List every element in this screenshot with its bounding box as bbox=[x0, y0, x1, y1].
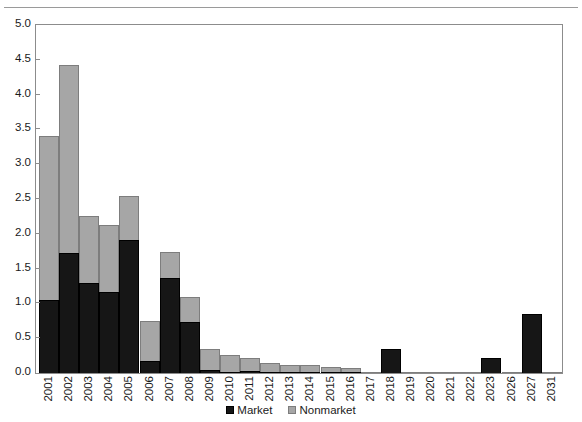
bar-stack[interactable] bbox=[79, 216, 99, 373]
legend-item[interactable]: Market bbox=[226, 404, 272, 416]
x-axis-tick-label: 2011 bbox=[244, 376, 256, 401]
bar-segment-nonmarket[interactable] bbox=[461, 372, 481, 373]
bar-group[interactable] bbox=[180, 25, 200, 373]
bar-segment-nonmarket[interactable] bbox=[401, 372, 421, 373]
bar-segment-nonmarket[interactable] bbox=[39, 136, 59, 300]
bar-segment-nonmarket[interactable] bbox=[361, 372, 381, 373]
bar-stack[interactable] bbox=[260, 363, 280, 373]
bar-stack[interactable] bbox=[341, 368, 361, 373]
bar-group[interactable] bbox=[79, 25, 99, 373]
bar-segment-market[interactable] bbox=[119, 240, 139, 373]
bar-segment-nonmarket[interactable] bbox=[502, 372, 522, 373]
bar-group[interactable] bbox=[140, 25, 160, 373]
bar-segment-market[interactable] bbox=[481, 358, 501, 373]
bar-group[interactable] bbox=[59, 25, 79, 373]
bar-stack[interactable] bbox=[119, 196, 139, 373]
bar-group[interactable] bbox=[300, 25, 320, 373]
bar-group[interactable] bbox=[361, 25, 381, 373]
y-axis-tick-label: 4.0 bbox=[15, 88, 31, 100]
bar-segment-market[interactable] bbox=[59, 253, 79, 373]
bar-group[interactable] bbox=[200, 25, 220, 373]
bar-segment-market[interactable] bbox=[381, 349, 401, 373]
bar-segment-market[interactable] bbox=[160, 278, 180, 373]
x-axis-tick: 2002 bbox=[59, 376, 79, 406]
bar-stack[interactable] bbox=[140, 321, 160, 373]
bar-stack[interactable] bbox=[39, 136, 59, 373]
bar-segment-nonmarket[interactable] bbox=[220, 355, 240, 372]
bar-segment-market[interactable] bbox=[200, 370, 220, 373]
bar-stack[interactable] bbox=[200, 349, 220, 373]
bar-segment-market[interactable] bbox=[341, 372, 361, 373]
bar-stack[interactable] bbox=[321, 367, 341, 373]
bar-stack[interactable] bbox=[381, 349, 401, 373]
bar-segment-nonmarket[interactable] bbox=[59, 65, 79, 252]
bar-stack[interactable] bbox=[280, 365, 300, 373]
bar-segment-market[interactable] bbox=[79, 283, 99, 373]
bar-stack[interactable] bbox=[160, 252, 180, 373]
bar-group[interactable] bbox=[160, 25, 180, 373]
bar-segment-market[interactable] bbox=[99, 292, 119, 373]
bar-segment-nonmarket[interactable] bbox=[140, 321, 160, 361]
bar-segment-nonmarket[interactable] bbox=[200, 349, 220, 371]
bar-group[interactable] bbox=[502, 25, 522, 373]
bar-segment-market[interactable] bbox=[39, 300, 59, 373]
bar-group[interactable] bbox=[481, 25, 501, 373]
bar-segment-nonmarket[interactable] bbox=[441, 372, 461, 373]
legend-item[interactable]: Nonmarket bbox=[288, 404, 355, 416]
bar-group[interactable] bbox=[99, 25, 119, 373]
bar-segment-nonmarket[interactable] bbox=[260, 363, 280, 371]
bar-stack[interactable] bbox=[240, 358, 260, 373]
bar-stack[interactable] bbox=[180, 297, 200, 373]
y-axis-tick-label: 1.0 bbox=[15, 297, 31, 309]
bar-stack[interactable] bbox=[522, 314, 542, 373]
bar-segment-nonmarket[interactable] bbox=[160, 252, 180, 278]
bar-stack[interactable] bbox=[401, 372, 421, 373]
bar-stack[interactable] bbox=[502, 372, 522, 373]
bar-segment-market[interactable] bbox=[280, 372, 300, 373]
bar-segment-market[interactable] bbox=[300, 372, 320, 373]
bar-stack[interactable] bbox=[421, 372, 441, 373]
bar-stack[interactable] bbox=[220, 355, 240, 373]
bar-group[interactable] bbox=[280, 25, 300, 373]
bar-stack[interactable] bbox=[481, 358, 501, 373]
bar-group[interactable] bbox=[119, 25, 139, 373]
bar-segment-nonmarket[interactable] bbox=[79, 216, 99, 283]
bar-segment-nonmarket[interactable] bbox=[240, 358, 260, 371]
bar-stack[interactable] bbox=[441, 372, 461, 373]
bar-group[interactable] bbox=[381, 25, 401, 373]
bar-group[interactable] bbox=[421, 25, 441, 373]
x-axis-tick: 2003 bbox=[79, 376, 99, 406]
bar-group[interactable] bbox=[542, 25, 562, 373]
y-axis-tick-label: 3.0 bbox=[15, 157, 31, 169]
bar-segment-nonmarket[interactable] bbox=[119, 196, 139, 241]
bar-group[interactable] bbox=[240, 25, 260, 373]
bar-group[interactable] bbox=[341, 25, 361, 373]
bar-group[interactable] bbox=[220, 25, 240, 373]
bar-group[interactable] bbox=[441, 25, 461, 373]
bar-stack[interactable] bbox=[99, 225, 119, 373]
bar-segment-market[interactable] bbox=[140, 361, 160, 373]
bar-segment-market[interactable] bbox=[522, 314, 542, 373]
bar-stack[interactable] bbox=[300, 365, 320, 373]
bar-segment-market[interactable] bbox=[240, 371, 260, 373]
bar-segment-market[interactable] bbox=[321, 372, 341, 373]
bar-group[interactable] bbox=[39, 25, 59, 373]
bar-segment-nonmarket[interactable] bbox=[180, 297, 200, 322]
bar-segment-nonmarket[interactable] bbox=[421, 372, 441, 373]
bar-stack[interactable] bbox=[59, 65, 79, 373]
bar-stack[interactable] bbox=[361, 372, 381, 373]
bar-group[interactable] bbox=[321, 25, 341, 373]
bar-segment-nonmarket[interactable] bbox=[542, 372, 562, 373]
x-axis-tick: 2014 bbox=[300, 376, 320, 406]
bar-group[interactable] bbox=[461, 25, 481, 373]
bar-group[interactable] bbox=[522, 25, 542, 373]
bar-segment-nonmarket[interactable] bbox=[99, 225, 119, 291]
bar-segment-market[interactable] bbox=[260, 372, 280, 373]
y-axis-tick-mark bbox=[35, 198, 40, 199]
bar-group[interactable] bbox=[260, 25, 280, 373]
bar-segment-market[interactable] bbox=[180, 322, 200, 373]
bar-segment-market[interactable] bbox=[220, 372, 240, 373]
bar-stack[interactable] bbox=[542, 372, 562, 373]
bar-stack[interactable] bbox=[461, 372, 481, 373]
bar-group[interactable] bbox=[401, 25, 421, 373]
